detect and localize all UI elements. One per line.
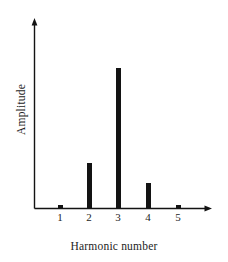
y-axis-arrowhead-icon [32, 18, 38, 26]
bar-harmonic-4 [146, 183, 151, 208]
x-tick-label-1: 1 [50, 211, 70, 224]
bar-harmonic-1 [58, 205, 63, 208]
x-tick-label-4: 4 [138, 211, 158, 224]
bar-harmonic-2 [87, 163, 92, 208]
y-axis-title: Amplitude [15, 65, 28, 155]
x-tick-label-3: 3 [108, 211, 128, 224]
bar-harmonic-5 [176, 205, 181, 208]
x-axis-arrowhead-icon [205, 206, 213, 212]
harmonic-spectrum-figure: 1 2 3 4 5 Amplitude Harmonic number [0, 0, 228, 262]
x-tick-label-2: 2 [79, 211, 99, 224]
x-tick-label-5: 5 [168, 211, 188, 224]
bar-harmonic-3 [116, 68, 121, 208]
x-axis-title: Harmonic number [0, 239, 228, 253]
